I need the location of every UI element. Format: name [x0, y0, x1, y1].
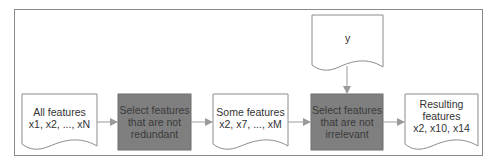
node-some-features: Some features x2, x7, ..., xM	[213, 100, 288, 136]
node-remove-irrelevant-line-1: Select features	[312, 104, 382, 116]
node-all-features-line-1: All features	[33, 106, 86, 118]
node-resulting-features-line-2: features	[423, 110, 461, 122]
node-remove-irrelevant: Select features that are not irrelevant	[311, 94, 383, 150]
node-remove-redundant-line-1: Select features	[119, 104, 189, 116]
node-some-features-line-1: Some features	[216, 106, 284, 118]
node-resulting-features: Resulting features x2, x10, x14	[405, 96, 478, 136]
node-remove-irrelevant-line-2: that are not	[320, 116, 373, 128]
node-resulting-features-line-3: x2, x10, x14	[413, 122, 470, 134]
node-remove-redundant-line-2: that are not	[128, 116, 181, 128]
diagram-canvas	[0, 0, 497, 164]
node-all-features: All features x1, x2, ..., xN	[22, 100, 97, 136]
node-target-y-line-1: y	[345, 32, 350, 44]
node-all-features-line-2: x1, x2, ..., xN	[29, 118, 90, 130]
node-target-y: y	[312, 24, 383, 52]
node-remove-irrelevant-line-3: irrelevant	[325, 128, 368, 140]
node-remove-redundant: Select features that are not redundant	[118, 94, 191, 150]
node-resulting-features-line-1: Resulting	[420, 98, 464, 110]
node-some-features-line-2: x2, x7, ..., xM	[219, 118, 281, 130]
node-remove-redundant-line-3: redundant	[131, 128, 178, 140]
